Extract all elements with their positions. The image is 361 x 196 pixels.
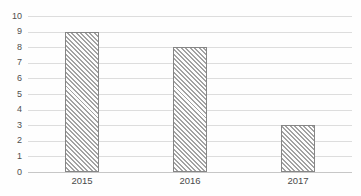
y-tick-label: 2	[0, 135, 22, 146]
x-tick-label-2016: 2016	[168, 175, 212, 186]
x-axis-line	[28, 172, 352, 173]
y-tick-label: 7	[0, 57, 22, 68]
y-tick-label: 3	[0, 120, 22, 131]
y-tick-label: 6	[0, 73, 22, 84]
x-tick-label-2017: 2017	[276, 175, 320, 186]
y-tick-label: 4	[0, 104, 22, 115]
y-tick-label: 0	[0, 167, 22, 178]
bar-2015	[65, 32, 99, 172]
y-tick-label: 8	[0, 42, 22, 53]
bar-chart: 012345678910 201520162017	[0, 0, 361, 196]
y-tick-label: 10	[0, 11, 22, 22]
bar-2017	[281, 125, 315, 172]
y-tick-label: 9	[0, 26, 22, 37]
gridline	[28, 16, 352, 17]
y-tick-label: 1	[0, 151, 22, 162]
bar-2016	[173, 47, 207, 172]
plot-area	[28, 16, 352, 172]
x-tick-label-2015: 2015	[60, 175, 104, 186]
y-tick-label: 5	[0, 89, 22, 100]
